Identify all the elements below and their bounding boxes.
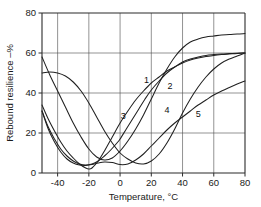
curve-number-labels: 12345 (121, 75, 201, 121)
rebound-resilience-chart: -40-20020406080020406080 12345 Temperatu… (0, 0, 261, 207)
x-tick-label: 80 (240, 177, 251, 188)
x-tick-label: 60 (208, 177, 219, 188)
x-axis-title: Temperature, °C (109, 191, 178, 202)
y-tick-label: 60 (25, 47, 36, 58)
data-curve-2 (42, 53, 245, 164)
y-tick-label: 0 (31, 167, 36, 178)
data-curve-1 (42, 34, 245, 160)
gridlines (42, 13, 245, 173)
curve-label-5: 5 (196, 109, 201, 119)
x-tick-label: 40 (177, 177, 188, 188)
x-tick-label: 0 (117, 177, 122, 188)
curve-label-4: 4 (164, 105, 169, 115)
curve-label-2: 2 (168, 81, 173, 91)
x-tick-label: -20 (82, 177, 96, 188)
curve-label-3: 3 (121, 111, 126, 121)
y-tick-label: 80 (25, 7, 36, 18)
data-curve-5 (42, 81, 245, 165)
chart-plot-area: -40-20020406080020406080 12345 Temperatu… (0, 0, 261, 207)
x-tick-label: 20 (146, 177, 157, 188)
data-curve-4 (42, 53, 245, 165)
y-tick-label: 20 (25, 127, 36, 138)
curve-label-1: 1 (144, 75, 149, 85)
y-axis-title: Rebound resilience –% (4, 44, 15, 142)
y-tick-label: 40 (25, 87, 36, 98)
data-curve-3 (42, 53, 245, 169)
curve-paths (42, 34, 245, 169)
x-tick-label: -40 (51, 177, 65, 188)
